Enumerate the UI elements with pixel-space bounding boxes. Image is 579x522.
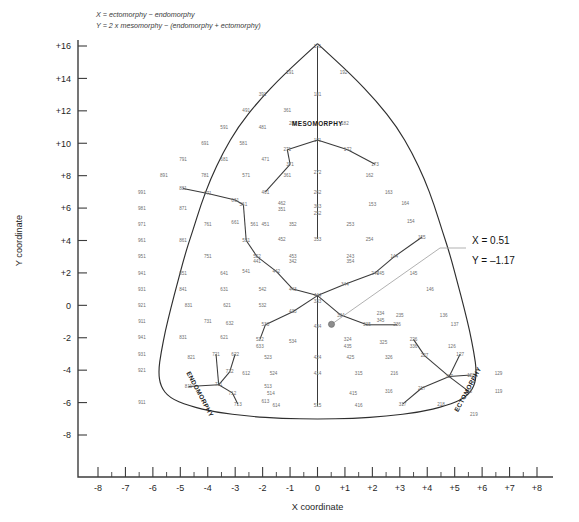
somatotype-code-label: 731 <box>204 319 212 324</box>
y-axis-title: Y coordinate <box>14 215 24 266</box>
y-axis-tick-label: +6 <box>61 203 71 213</box>
somatotype-code-label: 522 <box>256 337 264 342</box>
somatotype-link <box>216 354 219 385</box>
x-axis-tick-label: -8 <box>94 483 102 493</box>
somatotype-code-label: 941 <box>138 271 146 276</box>
somatotype-code-label: 751 <box>204 254 212 259</box>
somatotype-code-label: 345 <box>377 318 385 323</box>
somatotype-code-label: 681 <box>220 157 228 162</box>
somatotype-code-label: 191 <box>314 44 322 49</box>
subject-data-point[interactable] <box>328 321 334 327</box>
somatotype-code-label: 621 <box>223 303 231 308</box>
annotation-y-value: Y = –1.17 <box>472 255 515 266</box>
somatotype-code-label: 226 <box>410 337 418 342</box>
x-axis-tick-label: +3 <box>395 483 405 493</box>
y-axis-tick-label: -4 <box>63 365 71 375</box>
x-axis-tick-label: 0 <box>315 483 320 493</box>
somatotype-code-label: 621 <box>220 335 228 340</box>
somatotype-code-label: 851 <box>179 271 187 276</box>
somatotype-code-label: 344 <box>341 282 349 287</box>
somatotype-code-label: 354 <box>347 259 355 264</box>
somatotype-code-label: 443 <box>289 287 297 292</box>
somatotype-code-label: 632 <box>226 321 234 326</box>
somatotype-link <box>394 237 422 256</box>
somatotype-code-label: 911 <box>138 319 146 324</box>
somatotype-code-label: 217 <box>418 386 426 391</box>
x-axis-tick-label: +8 <box>532 483 542 493</box>
somatotype-code-label: 162 <box>366 173 374 178</box>
somatotype-code-label: 363 <box>314 204 322 209</box>
y-axis-tick-label: -6 <box>63 398 71 408</box>
somatotype-code-label: 316 <box>385 389 393 394</box>
somatotype-code-label: 171 <box>314 138 322 143</box>
somatotype-code-label: 631 <box>220 287 228 292</box>
somatotype-code-label: 218 <box>437 402 445 407</box>
somatotype-code-label: 117 <box>446 374 454 379</box>
somatotype-code-label: 612 <box>242 371 250 376</box>
y-axis-tick-label: +12 <box>56 106 71 116</box>
x-axis-tick-label: -6 <box>149 483 157 493</box>
somatotype-code-label: 781 <box>201 173 209 178</box>
somatotype-code-label: 154 <box>407 219 415 224</box>
somatotype-code-label: 931 <box>138 287 146 292</box>
somatotype-code-label: 415 <box>349 391 357 396</box>
somatotype-code-label: 513 <box>264 384 272 389</box>
somatotype-code-label: 352 <box>289 222 297 227</box>
y-axis-tick-label: +14 <box>56 74 71 84</box>
somatotype-code-label: 145 <box>410 271 418 276</box>
somatotype-code-label: 712 <box>229 391 237 396</box>
somatotype-code-label: 325 <box>380 340 388 345</box>
x-axis-tick-label: +2 <box>367 483 377 493</box>
somatotype-code-label: 361 <box>283 173 291 178</box>
x-axis-tick-label: -4 <box>204 483 212 493</box>
somatotype-code-label: 524 <box>270 371 278 376</box>
somatotype-code-label: 961 <box>138 238 146 243</box>
somatotype-code-label: 561 <box>251 222 259 227</box>
somatotype-code-label: 951 <box>138 254 146 259</box>
x-axis-tick-label: -7 <box>121 483 129 493</box>
somatochart-svg: +16+14+12+10+8+6+4+20-2-4-6-8-8-7-6-5-4-… <box>0 0 579 522</box>
somatotype-code-label: 661 <box>231 220 239 225</box>
somatotype-code-label: 881 <box>179 186 187 191</box>
somatotype-code-label: 713 <box>234 402 242 407</box>
somatotype-code-label: 216 <box>390 371 398 376</box>
somatotype-link <box>243 205 246 241</box>
somatotype-code-label: 252 <box>314 211 322 216</box>
somatotype-code-label: 391 <box>259 92 267 97</box>
somatotype-code-label: 351 <box>278 207 286 212</box>
somatotype-code-label: 711 <box>215 382 223 387</box>
somatotype-code-label: 921 <box>138 368 146 373</box>
somatotype-code-label: 831 <box>185 303 193 308</box>
somatotype-code-label: 991 <box>138 190 146 195</box>
somatotype-code-label: 534 <box>289 339 297 344</box>
somatotype-code-label: 831 <box>179 335 187 340</box>
somatotype-code-label: 481 <box>259 125 267 130</box>
somatotype-code-label: 791 <box>179 157 187 162</box>
somatotype-code-label: 245 <box>377 271 385 276</box>
somatotype-code-label: 551 <box>242 238 250 243</box>
somatotype-code-label: 462 <box>278 201 286 206</box>
somatotype-code-label: 336 <box>410 344 418 349</box>
somatotype-code-label: 235 <box>396 313 404 318</box>
somatotype-code-label: 271 <box>283 147 291 152</box>
somatotype-code-label: 291 <box>286 70 294 75</box>
somatotype-code-label: 441 <box>253 259 261 264</box>
somatotype-code-label: 227 <box>421 353 429 358</box>
somatotype-code-label: 172 <box>344 147 352 152</box>
somatotype-code-label: 262 <box>314 190 322 195</box>
y-axis-tick-label: +16 <box>56 41 71 51</box>
somatotype-code-label: 451 <box>262 222 270 227</box>
formula-line-x: X = ectomorphy − endomorphy <box>95 10 195 19</box>
somatotype-code-label: 119 <box>495 389 503 394</box>
somatotype-code-label: 891 <box>160 173 168 178</box>
somatotype-code-label: 761 <box>204 222 212 227</box>
somatotype-code-label: 435 <box>344 344 352 349</box>
somatotype-code-label: 911 <box>138 400 146 405</box>
y-axis-tick-label: +2 <box>61 268 71 278</box>
somatotype-code-label: 333 <box>314 299 322 304</box>
somatotype-code-label: 461 <box>262 190 270 195</box>
somatotype-code-label: 452 <box>278 237 286 242</box>
x-axis-tick-label: -5 <box>176 483 184 493</box>
somatotype-code-label: 721 <box>212 352 220 357</box>
somatotype-code-label: 127 <box>456 352 464 357</box>
